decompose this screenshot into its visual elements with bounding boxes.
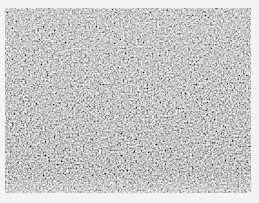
noise-texture <box>5 8 251 193</box>
noise-texture-svg <box>5 8 251 193</box>
image-frame <box>0 0 259 203</box>
